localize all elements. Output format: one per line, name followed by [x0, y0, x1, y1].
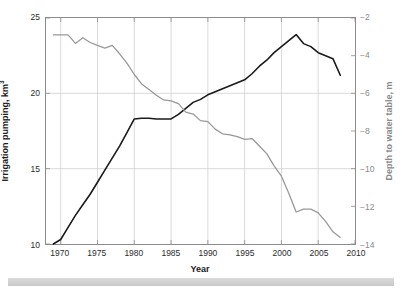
data-series-lines [46, 18, 355, 244]
x-axis-tick-label: 1990 [198, 249, 217, 258]
plot-area [45, 17, 356, 245]
x-axis-title: Year [190, 264, 209, 274]
x-axis-tick-label: 1985 [161, 249, 180, 258]
y-axis-right-tick-label: −10 [360, 165, 374, 174]
series-line [53, 35, 340, 237]
figure-container: Irrigation pumping, km3 Depth to water t… [0, 0, 402, 289]
y-axis-left-tick-label: 15 [20, 165, 40, 174]
y-axis-left-tick-label: 10 [20, 241, 40, 250]
y-axis-right-tick-label: −6 [360, 89, 370, 98]
y-axis-left-tick-label: 25 [20, 13, 40, 22]
y-axis-right-title: Depth to water table, m [384, 81, 394, 180]
bottom-divider-bar [8, 278, 394, 286]
x-axis-tick-label: 1980 [124, 249, 143, 258]
x-axis-tick-label: 1995 [235, 249, 254, 258]
x-axis-tick-label: 2005 [310, 249, 329, 258]
y-axis-left-title: Irrigation pumping, km3 [0, 80, 10, 181]
y-axis-right-tick-label: −2 [360, 13, 370, 22]
series-line [53, 35, 340, 244]
x-axis-tick-label: 2000 [272, 249, 291, 258]
x-axis-tick-label: 1975 [87, 249, 106, 258]
y-axis-left-tick-label: 20 [20, 89, 40, 98]
y-axis-right-tick-label: −4 [360, 51, 370, 60]
y-axis-right-tick-label: −12 [360, 203, 374, 212]
x-axis-tick-label: 1970 [50, 249, 69, 258]
y-axis-right-tick-label: −8 [360, 127, 370, 136]
x-axis-tick-label: 2010 [347, 249, 366, 258]
